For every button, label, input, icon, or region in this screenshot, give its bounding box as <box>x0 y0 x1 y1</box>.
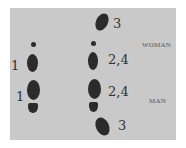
woman-label: WOMAN <box>142 41 171 49</box>
woman-right-footprint <box>88 52 98 70</box>
step-label-woman-left: 1 <box>11 59 19 72</box>
man-right-footprint <box>88 79 101 99</box>
step-label-man-24: 2,4 <box>108 85 129 98</box>
step-label-man-3: 3 <box>118 119 126 132</box>
step-label-woman-24: 2,4 <box>108 53 129 66</box>
woman-left-heel-dot <box>31 42 36 47</box>
woman-right-heel-dot <box>91 41 96 46</box>
woman-left-footprint <box>27 54 38 72</box>
man-label: MAN <box>149 97 166 105</box>
man-left-footprint <box>27 80 40 100</box>
step-label-man-left: 1 <box>16 90 24 103</box>
diagram-panel <box>10 8 176 140</box>
step-label-woman-3: 3 <box>113 17 121 30</box>
